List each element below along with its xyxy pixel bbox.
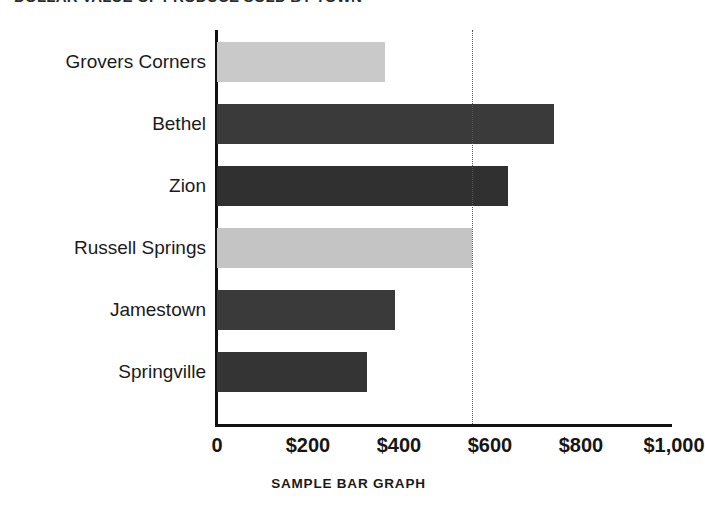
- bar-category-label: Bethel: [152, 113, 206, 135]
- bar-springville[interactable]: [217, 352, 367, 392]
- chart-title: DOLLAR VALUE OF PRODUCE SOLD BY TOWN: [14, 0, 684, 6]
- bar-zion[interactable]: [217, 166, 508, 206]
- bar-grovers-corners[interactable]: [217, 42, 385, 82]
- x-tick-label-0: 0: [211, 434, 222, 457]
- plot-area: Grovers Corners Bethel Zion Russell Spri…: [217, 30, 672, 426]
- x-tick-label-800: $800: [559, 434, 604, 457]
- x-tick-label-200: $200: [286, 434, 331, 457]
- x-tick-label-600: $600: [468, 434, 513, 457]
- x-tick-label-1000: $1,000: [643, 434, 704, 457]
- bar-category-label: Grovers Corners: [66, 51, 206, 73]
- x-axis-line: [215, 424, 672, 427]
- bar-category-label: Springville: [118, 361, 206, 383]
- bar-bethel[interactable]: [217, 104, 554, 144]
- chart-caption: SAMPLE BAR GRAPH: [0, 476, 697, 491]
- bar-category-label: Zion: [169, 175, 206, 197]
- x-tick-label-400: $400: [377, 434, 422, 457]
- bar-category-label: Jamestown: [110, 299, 206, 321]
- bar-russell-springs[interactable]: [217, 228, 472, 268]
- reference-line: [472, 30, 473, 424]
- bar-jamestown[interactable]: [217, 290, 395, 330]
- bar-category-label: Russell Springs: [74, 237, 206, 259]
